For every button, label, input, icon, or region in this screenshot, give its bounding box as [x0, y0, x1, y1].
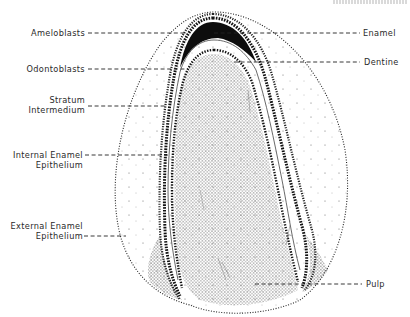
- label-internal-enamel-epithelium: Internal Enamel Epithelium: [13, 150, 83, 170]
- label-enamel: Enamel: [363, 28, 396, 38]
- label-odontoblasts: Odontoblasts: [27, 64, 86, 74]
- label-stratum-intermedium: Stratum Intermedium: [28, 95, 85, 115]
- label-ameloblasts: Ameloblasts: [31, 28, 85, 38]
- label-dentine: Dentine: [364, 57, 399, 67]
- label-external-enamel-epithelium: External Enamel Epithelium: [11, 221, 84, 241]
- label-pulp: Pulp: [366, 279, 385, 289]
